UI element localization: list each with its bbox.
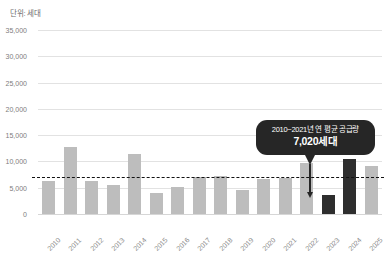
bar-2012 [85, 181, 98, 214]
x-tick-label-2023: 2023 [325, 236, 341, 252]
y-tick-label: 30,000 [0, 53, 27, 60]
x-tick-label-2017: 2017 [196, 236, 212, 252]
y-tick-label: 35,000 [0, 27, 27, 34]
x-tick-label-2015: 2015 [153, 236, 169, 252]
x-tick-label-2011: 2011 [67, 237, 82, 252]
x-tick-label-2012: 2012 [89, 236, 105, 252]
x-tick-label-2024: 2024 [347, 236, 363, 252]
x-tick-label-2019: 2019 [239, 236, 255, 252]
x-tick-label-2013: 2013 [110, 236, 126, 252]
x-tick-label-2025: 2025 [368, 236, 384, 252]
bar-2023 [322, 195, 335, 214]
callout-stem-icon [309, 164, 311, 193]
bar-2010 [42, 181, 55, 214]
average-callout: 2010~2021년 연 평균 공급량 7,020세대 [256, 120, 375, 155]
x-tick-label-2020: 2020 [261, 236, 277, 252]
x-tick-label-2014: 2014 [132, 236, 148, 252]
y-tick-label: 25,000 [0, 79, 27, 86]
bar-2011 [64, 147, 77, 214]
x-tick-label-2018: 2018 [218, 236, 234, 252]
y-tick-label: 20,000 [0, 105, 27, 112]
average-line [32, 177, 384, 178]
bar-2015 [150, 193, 163, 214]
callout-value: 7,020세대 [260, 135, 371, 149]
y-tick-label: 10,000 [0, 158, 27, 165]
bar-2013 [107, 185, 120, 214]
bar-2022 [300, 163, 313, 214]
unit-label: 단위: 세대 [10, 7, 41, 18]
bar-chart: 단위: 세대 35,00030,00025,00020,00015,00010,… [0, 0, 390, 253]
bar-2017 [193, 177, 206, 214]
gridline [38, 214, 382, 215]
x-tick-label-2010: 2010 [46, 236, 62, 252]
y-tick-label: 15,000 [0, 132, 27, 139]
callout-title: 2010~2021년 연 평균 공급량 [260, 125, 371, 134]
bar-2025 [365, 166, 378, 214]
bar-2020 [257, 179, 270, 214]
bar-2014 [128, 154, 141, 214]
bar-2019 [236, 190, 249, 214]
x-tick-label-2021: 2021 [282, 236, 298, 252]
x-tick-label-2016: 2016 [175, 236, 191, 252]
y-tick-label: 5,000 [0, 184, 27, 191]
bar-2016 [171, 187, 184, 214]
y-tick-label: 0 [0, 211, 27, 218]
bar-2024 [343, 159, 356, 214]
bar-2021 [279, 178, 292, 214]
bar-2018 [214, 176, 227, 214]
x-tick-label-2022: 2022 [304, 236, 320, 252]
